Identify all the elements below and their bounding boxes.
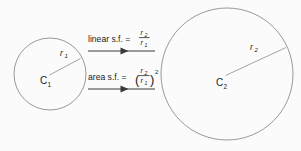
area-denominator-subscript: 1 [145,80,148,86]
arrow-linear-head [121,48,129,55]
circle-large-outline [161,8,293,140]
circle-small-outline [14,38,86,110]
linear-numerator: r [141,28,144,37]
circle-large-radius-subscript: 2 [254,47,259,53]
area-denominator: r [141,76,144,85]
linear-denominator-subscript: 1 [145,42,148,48]
area-close-paren: ) [150,72,154,87]
area-scale-factor-label: area s.f. = [88,72,126,82]
area-open-paren: ( [135,72,140,87]
arrow-linear [88,48,155,55]
arrow-area-head [121,86,129,93]
circle-large-radius-label: r [250,42,254,52]
circle-large-center-subscript: 2 [224,83,228,90]
circle-small-center-label: C [40,75,47,86]
circle-small-radius-label: r [60,48,64,58]
area-numerator-subscript: 2 [144,70,148,76]
circle-large-center-label: C [216,77,223,88]
area-exponent: 2 [155,69,159,75]
scale-factor-diagram: C 1 r 1 C 2 r 2 linear s.f. = r 2 r 1 ar… [0,0,301,151]
circle-small-radius-subscript: 1 [65,53,68,59]
circle-small-center-subscript: 1 [48,81,52,88]
diagram-canvas: C 1 r 1 C 2 r 2 linear s.f. = r 2 r 1 ar… [0,0,301,151]
linear-scale-factor-label: linear s.f. = [88,34,130,44]
arrow-area [88,86,155,93]
linear-denominator: r [141,38,144,47]
linear-numerator-subscript: 2 [144,32,148,38]
circle-small-radius-line [50,59,81,76]
area-numerator: r [141,66,144,75]
